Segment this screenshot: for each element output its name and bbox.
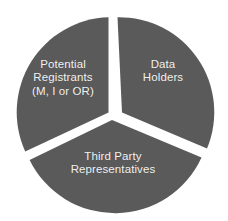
- pie-chart: Potential Registrants (M, I or OR) Data …: [0, 0, 228, 221]
- pie-chart-graphic: [0, 0, 228, 221]
